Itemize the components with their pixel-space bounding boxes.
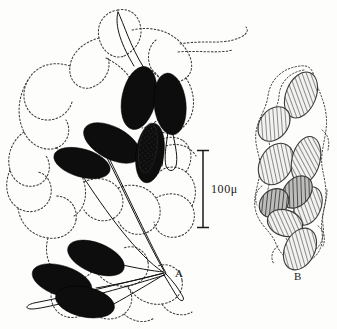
figure-container: 100μ A B xyxy=(0,0,337,329)
panel-label-a: A xyxy=(175,267,183,279)
panel-label-b: B xyxy=(294,270,302,282)
scale-bar-label: 100μ xyxy=(211,182,238,196)
scientific-figure: 100μ A B xyxy=(0,0,337,329)
